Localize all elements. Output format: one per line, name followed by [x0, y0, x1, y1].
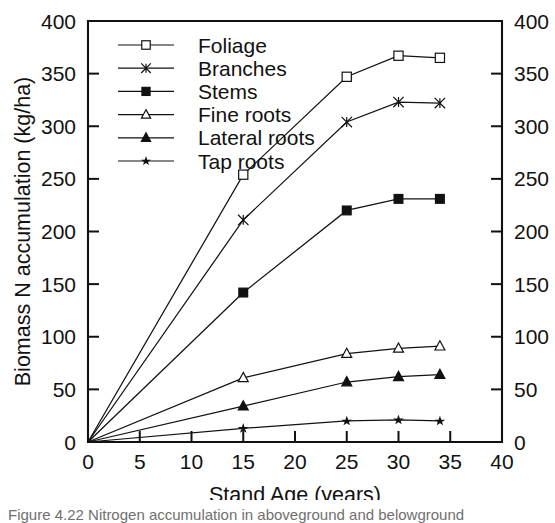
legend-entry: Fine roots [118, 103, 291, 126]
series-path [88, 346, 440, 442]
y-axis-title: Biomass N accumulation (kg/ha) [11, 77, 35, 386]
x-tick-label: 25 [335, 450, 358, 473]
legend-entry-label: Foliage [198, 34, 267, 57]
y-tick-label-left: 150 [41, 273, 76, 296]
data-point [435, 369, 445, 378]
y-tick-label-left: 250 [41, 167, 76, 190]
x-tick-label: 20 [283, 450, 306, 473]
y-tick-label-right: 0 [514, 431, 526, 454]
data-point [394, 194, 403, 203]
data-point [238, 215, 248, 225]
data-point [435, 53, 444, 62]
data-point [394, 51, 403, 60]
x-axis-title: Stand Age (years) [209, 483, 381, 500]
data-point [437, 418, 444, 424]
y-tick-label-left: 0 [64, 431, 76, 454]
y-tick-label-right: 50 [514, 378, 537, 401]
legend-entry: Stems [118, 80, 258, 103]
y-tick-label-left: 300 [41, 115, 76, 138]
series-path [88, 199, 440, 442]
y-tick-label-right: 100 [514, 325, 549, 348]
figure-caption: Figure 4.22 Nitrogen accumulation in abo… [8, 506, 555, 523]
legend-entry-label: Branches [198, 57, 287, 80]
data-point [239, 288, 248, 297]
x-tick-label: 15 [232, 450, 255, 473]
legend-entry: Foliage [118, 34, 267, 57]
y-tick-label-left: 50 [53, 378, 76, 401]
legend-entry-label: Tap roots [198, 150, 284, 173]
y-tick-label-left: 200 [41, 220, 76, 243]
series-path [88, 420, 440, 442]
x-tick-label: 35 [439, 450, 462, 473]
y-tick-label-right: 150 [514, 273, 549, 296]
y-tick-label-left: 400 [41, 10, 76, 33]
y-tick-label-right: 200 [514, 220, 549, 243]
data-point [395, 416, 402, 422]
x-tick-label: 5 [134, 450, 146, 473]
y-axis-ticks-left: 050100150200250300350400 [41, 10, 99, 454]
legend-marker [142, 41, 150, 49]
legend-entry: Lateral roots [118, 126, 315, 149]
y-tick-label-right: 250 [514, 167, 549, 190]
data-point [435, 341, 445, 350]
legend-entry-label: Lateral roots [198, 126, 315, 149]
legend-marker [141, 110, 150, 118]
x-tick-label: 10 [180, 450, 203, 473]
data-point [342, 206, 351, 215]
series-path [88, 375, 440, 442]
legend-entry: Branches [118, 57, 287, 80]
legend-marker [143, 158, 149, 164]
legend-entry-label: Fine roots [198, 103, 291, 126]
y-tick-label-right: 400 [514, 10, 549, 33]
y-tick-label-left: 350 [41, 62, 76, 85]
y-tick-label-right: 300 [514, 115, 549, 138]
legend-entry-label: Stems [198, 80, 258, 103]
series-lateral-roots [88, 369, 445, 442]
y-axis-ticks-right: 050100150200250300350400 [491, 10, 549, 454]
x-tick-label: 0 [82, 450, 94, 473]
series-stems [88, 194, 444, 442]
data-point [343, 418, 350, 424]
data-point [436, 194, 445, 203]
legend-marker [142, 87, 150, 95]
line-chart: 0501001502002503003504000501001502002503… [0, 0, 555, 500]
data-point [342, 72, 351, 81]
x-tick-label: 40 [490, 450, 513, 473]
data-point [240, 425, 247, 431]
data-point [342, 117, 352, 127]
legend-entry: Tap roots [118, 150, 284, 173]
x-tick-label: 30 [387, 450, 410, 473]
legend-marker [141, 133, 150, 141]
y-tick-label-left: 100 [41, 325, 76, 348]
y-tick-label-right: 350 [514, 62, 549, 85]
legend: FoliageBranchesStemsFine rootsLateral ro… [118, 34, 315, 173]
